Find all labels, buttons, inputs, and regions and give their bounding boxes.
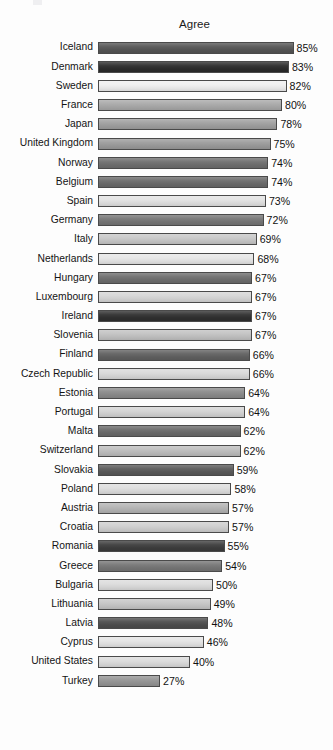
- bar-row: United States40%: [0, 652, 333, 671]
- bar-category-label: United States: [0, 656, 98, 666]
- bar-row: Switzerland62%: [0, 441, 333, 460]
- bar-value-label: 40%: [190, 656, 214, 667]
- bar-track: 64%: [98, 383, 333, 402]
- bar-value-label: 66%: [250, 349, 274, 360]
- bar-track: 74%: [98, 153, 333, 172]
- bar: [98, 483, 231, 495]
- bar-value-label: 49%: [211, 599, 235, 610]
- bar-row: Slovenia67%: [0, 326, 333, 345]
- bar-row: Norway74%: [0, 153, 333, 172]
- bar-row: Greece54%: [0, 556, 333, 575]
- bar: [98, 118, 277, 130]
- bar-track: 54%: [98, 556, 333, 575]
- bar-value-label: 55%: [225, 541, 249, 552]
- bar-track: 67%: [98, 307, 333, 326]
- bar-value-label: 64%: [245, 388, 269, 399]
- bar-row: Malta62%: [0, 422, 333, 441]
- bar-track: 27%: [98, 671, 333, 690]
- bar-track: 83%: [98, 57, 333, 76]
- bar-rows-container: Iceland85%Denmark83%Sweden82%France80%Ja…: [0, 38, 333, 690]
- bar-row: Luxembourg67%: [0, 287, 333, 306]
- bar-value-label: 82%: [287, 81, 311, 92]
- bar-track: 50%: [98, 575, 333, 594]
- bar: [98, 636, 204, 648]
- bar-row: Turkey27%: [0, 671, 333, 690]
- bar: [98, 540, 225, 552]
- bar-track: 48%: [98, 614, 333, 633]
- bar-category-label: Denmark: [0, 62, 98, 72]
- bar-value-label: 67%: [252, 311, 276, 322]
- bar-row: Latvia48%: [0, 614, 333, 633]
- bar-category-label: Greece: [0, 561, 98, 571]
- bar-value-label: 58%: [231, 484, 255, 495]
- bar-value-label: 69%: [257, 234, 281, 245]
- bar-value-label: 74%: [268, 177, 292, 188]
- chart-title: Agree: [0, 18, 333, 30]
- bar: [98, 195, 266, 207]
- bar-chart: Agree Iceland85%Denmark83%Sweden82%Franc…: [0, 0, 333, 750]
- bar-value-label: 48%: [208, 618, 232, 629]
- bar-value-label: 66%: [250, 368, 274, 379]
- bar: [98, 656, 190, 668]
- bar-category-label: Finland: [0, 349, 98, 359]
- bar-category-label: Iceland: [0, 42, 98, 52]
- bar-category-label: Hungary: [0, 273, 98, 283]
- bar: [98, 329, 252, 341]
- bar-value-label: 68%: [254, 253, 278, 264]
- bar-category-label: Luxembourg: [0, 292, 98, 302]
- bar-category-label: Turkey: [0, 676, 98, 686]
- bar-value-label: 75%: [271, 138, 295, 149]
- bar-value-label: 64%: [245, 407, 269, 418]
- bar-row: Italy69%: [0, 230, 333, 249]
- bar-row: Sweden82%: [0, 76, 333, 95]
- bar-track: 57%: [98, 518, 333, 537]
- bar-track: 67%: [98, 287, 333, 306]
- bar-track: 66%: [98, 345, 333, 364]
- bar: [98, 214, 264, 226]
- bar-track: 80%: [98, 96, 333, 115]
- bar-category-label: Bulgaria: [0, 580, 98, 590]
- bar-category-label: Romania: [0, 541, 98, 551]
- bar-row: Ireland67%: [0, 307, 333, 326]
- bar: [98, 445, 241, 457]
- bar-value-label: 74%: [268, 157, 292, 168]
- bar: [98, 425, 241, 437]
- bar-track: 64%: [98, 403, 333, 422]
- bar-track: 69%: [98, 230, 333, 249]
- bar: [98, 138, 271, 150]
- bar: [98, 560, 222, 572]
- bar-row: Romania55%: [0, 537, 333, 556]
- bar: [98, 80, 287, 92]
- bar-track: 73%: [98, 192, 333, 211]
- bar: [98, 579, 213, 591]
- bar-category-label: Czech Republic: [0, 369, 98, 379]
- bar: [98, 272, 252, 284]
- bar-row: Slovakia59%: [0, 460, 333, 479]
- bar-track: 55%: [98, 537, 333, 556]
- bar-row: Bulgaria50%: [0, 575, 333, 594]
- bar: [98, 233, 257, 245]
- bar: [98, 521, 229, 533]
- bar: [98, 502, 229, 514]
- bar: [98, 291, 252, 303]
- bar-category-label: Poland: [0, 484, 98, 494]
- bar-row: Estonia64%: [0, 383, 333, 402]
- bar-row: Hungary67%: [0, 268, 333, 287]
- bar-value-label: 50%: [213, 580, 237, 591]
- bar-value-label: 27%: [160, 675, 184, 686]
- bar-row: Denmark83%: [0, 57, 333, 76]
- bar-category-label: France: [0, 100, 98, 110]
- bar-category-label: Lithuania: [0, 599, 98, 609]
- bar: [98, 598, 211, 610]
- bar-category-label: Belgium: [0, 177, 98, 187]
- bar-row: United Kingdom75%: [0, 134, 333, 153]
- bar: [98, 464, 234, 476]
- bar-track: 85%: [98, 38, 333, 57]
- bar-value-label: 67%: [252, 330, 276, 341]
- bar-track: 67%: [98, 326, 333, 345]
- bar-track: 59%: [98, 460, 333, 479]
- bar-row: Austria57%: [0, 499, 333, 518]
- bar: [98, 253, 254, 265]
- bar-row: Spain73%: [0, 192, 333, 211]
- bar-row: Lithuania49%: [0, 594, 333, 613]
